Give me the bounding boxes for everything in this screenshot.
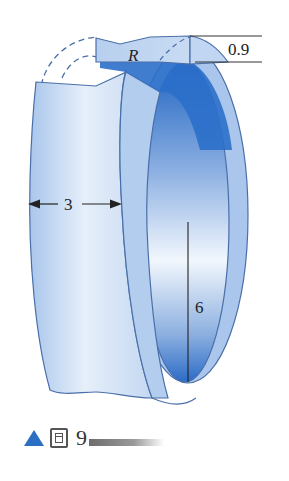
ring-diagram: R 0.9 3 6 [0, 0, 289, 481]
height-label: 6 [195, 298, 204, 317]
thickness-label: 0.9 [228, 40, 249, 59]
radius-label: R [127, 46, 139, 65]
figure-number: 9 [76, 425, 87, 451]
triangle-icon [24, 430, 44, 446]
top-cut-section [96, 36, 228, 64]
width-label: 3 [64, 195, 73, 214]
figure-caption: 9 [24, 426, 164, 450]
caption-gradient-bar [89, 439, 164, 446]
figure-character-icon [50, 428, 68, 448]
